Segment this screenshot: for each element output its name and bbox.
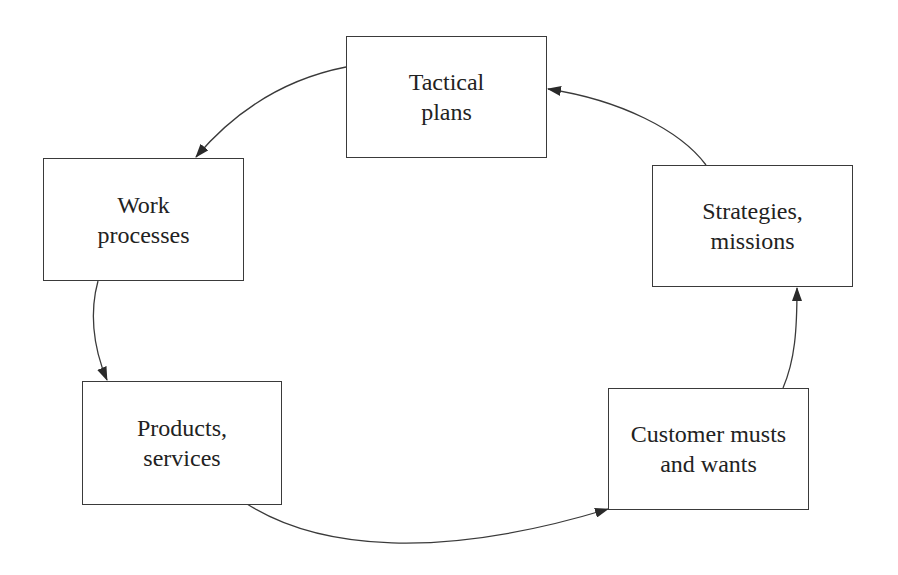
node-strategies-missions: Strategies, missions <box>652 165 853 287</box>
node-label-line: processes <box>98 220 190 250</box>
node-label-line: Strategies, <box>702 196 803 226</box>
node-label-line: Work <box>117 190 170 220</box>
arrow-tactical-to-work <box>196 67 346 157</box>
node-work-processes: Work processes <box>43 158 244 281</box>
node-customer-musts-wants: Customer musts and wants <box>608 388 809 510</box>
arrow-strategies-to-tactical <box>548 89 706 165</box>
arrow-work-to-products <box>93 281 107 380</box>
node-label-line: Tactical <box>409 67 485 97</box>
node-products-services: Products, services <box>82 381 282 505</box>
node-label-line: services <box>143 443 220 473</box>
arrow-customer-to-strategies <box>783 288 797 388</box>
node-tactical-plans: Tactical plans <box>346 36 547 158</box>
node-label-line: missions <box>710 226 794 256</box>
node-label-line: plans <box>421 97 472 127</box>
node-label-line: and wants <box>660 449 757 479</box>
node-label-line: Customer musts <box>631 419 786 449</box>
arrow-products-to-customer <box>247 504 608 543</box>
node-label-line: Products, <box>137 413 227 443</box>
